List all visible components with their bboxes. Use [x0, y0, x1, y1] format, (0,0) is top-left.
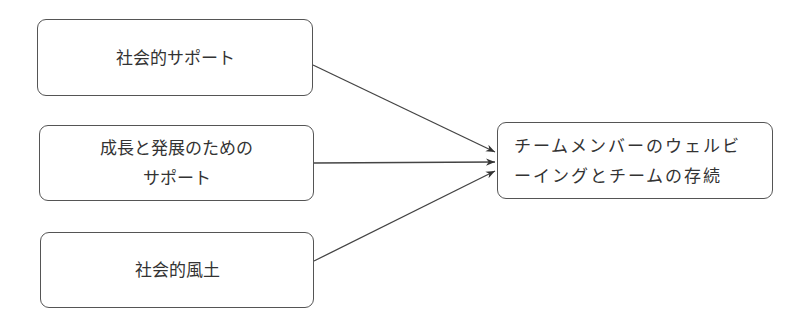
- arrow-growth-support-to-target: [314, 162, 495, 163]
- node-label: 社会的風土: [135, 255, 220, 285]
- node-team-wellbeing-viability: チームメンバーのウェルビ ーイングとチームの存続: [497, 122, 773, 199]
- node-social-climate: 社会的風土: [40, 232, 314, 308]
- node-label: チームメンバーのウェルビ ーイングとチームの存続: [514, 131, 741, 191]
- arrow-social-climate-to-target: [314, 171, 495, 261]
- node-label: 成長と発展のための サポート: [100, 133, 253, 193]
- node-label: 社会的サポート: [116, 43, 235, 73]
- arrow-social-support-to-target: [313, 65, 495, 152]
- node-social-support: 社会的サポート: [37, 19, 313, 96]
- node-growth-development-support: 成長と発展のための サポート: [39, 125, 314, 201]
